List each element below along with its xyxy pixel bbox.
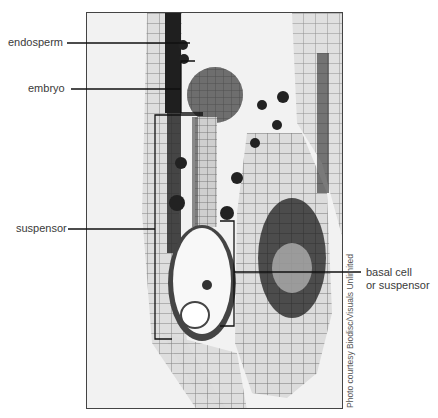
label-endosperm: endosperm [8,36,63,49]
label-suspensor: suspensor [16,222,67,235]
micrograph-photo [86,12,343,409]
label-basal-line1: basal cell [366,266,412,279]
label-embryo: embryo [28,82,65,95]
micrograph-illustration [87,13,343,409]
label-basal-line2: or suspensor [366,279,430,292]
photo-credit: Photo courtesy Biodisc/Visuals Unlimited [345,254,355,408]
